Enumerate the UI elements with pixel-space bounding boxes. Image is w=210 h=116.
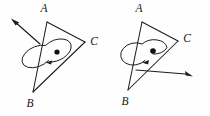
angular-velocity-arrow-left (15, 22, 41, 45)
vertex-label-B-left: B (26, 97, 33, 109)
right-figure: A B C (121, 2, 193, 107)
center-dot-left (54, 49, 59, 54)
rotation-diagram-svg: A B C A B C (0, 0, 210, 116)
center-dot-right (150, 48, 156, 54)
triangle-edge-CA-left (47, 22, 85, 42)
vertex-label-B-right: B (121, 95, 128, 107)
figure-root: A B C A B C (0, 0, 210, 116)
vertex-label-A-right: A (134, 2, 143, 14)
left-figure: A B C (11, 2, 98, 109)
angular-velocity-arrow-right (136, 70, 189, 74)
triangle-edge-AB-right (128, 22, 142, 90)
angular-velocity-arrowhead-right (185, 71, 193, 76)
vertex-label-A-left: A (39, 2, 48, 14)
triangle-edge-AB-left (33, 22, 47, 92)
triangle-edge-CA-right (142, 22, 178, 41)
vertex-label-C-left: C (90, 35, 98, 47)
rotation-arc-right (121, 40, 167, 65)
rotation-arrowhead-left (46, 60, 53, 64)
rotation-arc-left (22, 39, 71, 68)
vertex-label-C-right: C (183, 32, 191, 44)
triangle-edge-BC-left (33, 42, 85, 92)
